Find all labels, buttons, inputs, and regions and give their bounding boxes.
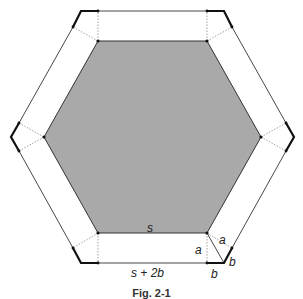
label-b-diagonal: b: [229, 256, 236, 268]
label-a-diagonal: a: [219, 234, 226, 246]
label-b-bottom: b: [211, 268, 218, 280]
label-s-plus-2b: s + 2b: [131, 267, 164, 279]
inner-hexagon: [44, 41, 261, 233]
label-a-vertical: a: [195, 244, 202, 256]
label-s: s: [147, 222, 153, 234]
figure-caption: Fig. 2-1: [0, 287, 303, 299]
